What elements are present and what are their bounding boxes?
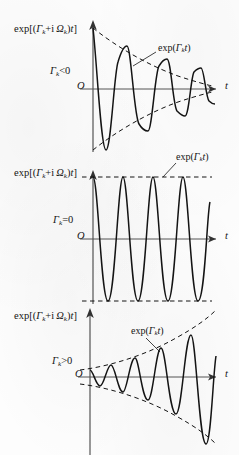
panel-decaying: exp[(Γk+i Ωk)t] exp(Γkt) Γk<0 O t bbox=[0, 0, 239, 152]
panel-constant: exp[(Γk+i Ωk)t] exp(Γkt) Γk=0 O t bbox=[0, 152, 239, 304]
t-axis-growing bbox=[78, 374, 216, 381]
t-axis-label-panel-constant: t bbox=[225, 231, 228, 242]
y-axis-decaying bbox=[89, 20, 97, 152]
envelope-label-panel-constant: exp(Γkt) bbox=[176, 152, 209, 163]
envelope-label-panel-growing: exp(Γkt) bbox=[131, 326, 164, 337]
y-axis-label-panel-decaying: exp[(Γk+i Ωk)t] bbox=[14, 24, 77, 36]
envelope-lower-growing bbox=[80, 384, 216, 444]
origin-label-panel-decaying: O bbox=[77, 81, 85, 92]
y-axis-label-panel-constant: exp[(Γk+i Ωk)t] bbox=[14, 168, 77, 180]
origin-label-panel-constant: O bbox=[77, 231, 85, 242]
condition-label-panel-decaying: Γk<0 bbox=[50, 66, 70, 78]
plot-growing bbox=[0, 304, 239, 455]
y-axis-label-panel-growing: exp[(Γk+i Ωk)t] bbox=[14, 311, 77, 323]
curve-growing bbox=[90, 335, 216, 444]
figure-root: exp[(Γk+i Ωk)t] exp(Γkt) Γk<0 O t bbox=[0, 0, 239, 455]
condition-label-panel-growing: Γk>0 bbox=[52, 356, 72, 368]
condition-label-panel-constant: Γk=0 bbox=[53, 215, 73, 227]
y-axis-growing bbox=[86, 308, 94, 455]
t-axis-label-panel-decaying: t bbox=[225, 81, 228, 92]
leader-line-decaying bbox=[133, 52, 156, 66]
t-axis-decaying bbox=[80, 86, 216, 93]
envelope-label-panel-decaying: exp(Γkt) bbox=[158, 43, 191, 54]
t-axis-label-panel-growing: t bbox=[225, 369, 228, 380]
envelope-upper-decaying bbox=[93, 28, 214, 87]
leader-line-constant bbox=[163, 163, 176, 177]
panel-growing: exp[(Γk+i Ωk)t] exp(Γkt) Γk>0 O t bbox=[0, 304, 239, 455]
origin-label-panel-growing: O bbox=[75, 369, 83, 380]
